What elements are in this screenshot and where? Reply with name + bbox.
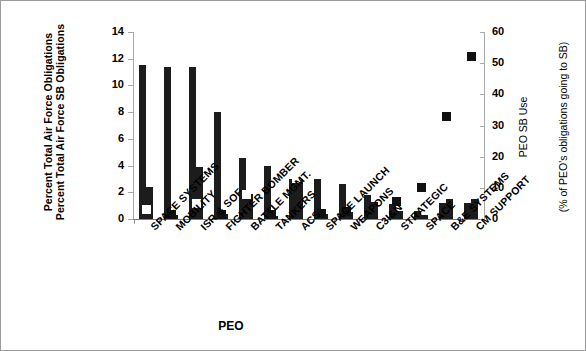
left-tick [128, 32, 133, 33]
left-tick-label: 14 [98, 26, 124, 37]
left-tick-label: 4 [98, 160, 124, 171]
left-tick-label: 6 [98, 133, 124, 144]
right-tick-label: 20 [492, 151, 518, 162]
left-tick [128, 192, 133, 193]
right-tick [480, 157, 485, 158]
left-tick [128, 112, 133, 113]
bar-af-sb-obligations [146, 187, 153, 219]
left-tick [128, 85, 133, 86]
left-tick [128, 219, 133, 220]
y2-axis-title-line2: (% of PEO's obligations going to SB) [555, 32, 571, 222]
left-tick [128, 166, 133, 167]
right-tick-label: 40 [492, 88, 518, 99]
left-tick-label: 8 [98, 106, 124, 117]
right-tick-label: 50 [492, 57, 518, 68]
left-tick-label: 12 [98, 53, 124, 64]
marker-peo-sb-use [142, 205, 151, 214]
left-tick [128, 59, 133, 60]
right-tick [480, 63, 485, 64]
left-axis-line [133, 32, 134, 220]
chart-figure: Percent Total Air Force Obligations Perc… [0, 0, 586, 351]
y-axis-title-line2: Percent Total Air Force SB Obligations [49, 17, 71, 227]
right-tick [480, 32, 485, 33]
right-tick-label: 30 [492, 120, 518, 131]
x-axis-title: PEO [1, 319, 461, 333]
marker-peo-sb-use [417, 183, 426, 192]
marker-peo-sb-use [467, 52, 476, 61]
bar-af-obligations [164, 67, 171, 219]
marker-peo-sb-use [442, 112, 451, 121]
bar-af-obligations [139, 65, 146, 219]
right-tick-label: 60 [492, 26, 518, 37]
left-tick-label: 10 [98, 79, 124, 90]
left-tick-label: 2 [98, 186, 124, 197]
right-tick [480, 126, 485, 127]
left-tick [128, 139, 133, 140]
x-tick [134, 220, 135, 224]
right-tick [480, 94, 485, 95]
left-tick-label: 0 [98, 213, 124, 224]
